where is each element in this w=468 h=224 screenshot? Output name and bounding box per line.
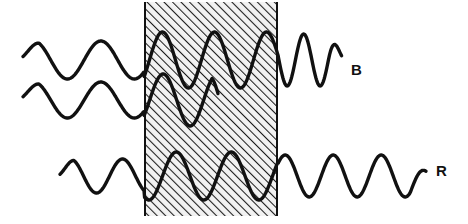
wave-label-r: R xyxy=(436,163,447,178)
wave-slab-figure: B R xyxy=(0,0,468,224)
wave-diagram-svg xyxy=(0,0,468,224)
wave-label-b: B xyxy=(351,62,362,77)
